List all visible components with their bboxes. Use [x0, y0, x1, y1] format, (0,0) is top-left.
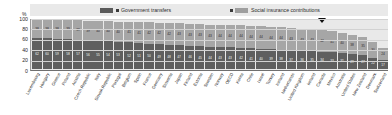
bar-value-label: 43 — [178, 32, 182, 36]
bar-segment-government-transfers: 60 — [43, 38, 52, 69]
bar-segment-social-insurance: 38 — [348, 35, 357, 54]
x-tick: Ireland — [306, 72, 316, 115]
bar-segment-social-insurance: 42 — [165, 23, 174, 44]
x-tick: Czech Republic — [82, 72, 92, 115]
bar-value-label: 60 — [45, 52, 49, 56]
bar-value-label: 49 — [157, 55, 161, 59]
x-tick: Norway — [215, 72, 225, 115]
bar-value-label: 41 — [127, 30, 131, 34]
x-tick-label: Slovenia — [161, 72, 173, 89]
x-tick: Portugal — [113, 72, 123, 115]
bar-value-label: 42 — [239, 56, 243, 60]
x-tick: Hungary — [41, 72, 51, 115]
x-tick: United Kingdom — [296, 72, 306, 115]
x-tick-label: Poland — [60, 72, 71, 86]
bar-value-label: 55 — [96, 53, 100, 57]
bar-value-label: 38 — [351, 43, 355, 47]
bar-value-label: 42 — [167, 32, 171, 36]
bar-segment-government-transfers: 38 — [277, 50, 286, 69]
x-tick: OECD — [225, 72, 235, 115]
bar-segment-government-transfers: 58 — [63, 39, 72, 69]
x-tick: Switzerland — [378, 72, 388, 115]
gridline — [31, 29, 388, 30]
x-tick: Germany — [153, 72, 163, 115]
x-tick: Turkey — [266, 72, 276, 115]
gridline — [31, 40, 388, 41]
bar-segment-government-transfers: 56 — [83, 40, 92, 69]
x-tick: Israel — [255, 72, 265, 115]
bar-segment-social-insurance: 42 — [155, 23, 164, 44]
bar-value-label: 45 — [198, 56, 202, 60]
y-tick-label: 80 — [2, 27, 28, 32]
bar-segment-government-transfers: 57 — [73, 40, 82, 69]
bar-value-label: 43 — [218, 56, 222, 60]
bar-value-label: 42 — [147, 31, 151, 35]
bar-segment-social-insurance: 44 — [216, 25, 225, 47]
bar-segment-government-transfers: 59 — [53, 39, 62, 69]
x-tick: New Zealand — [358, 72, 368, 115]
y-tick-label: 60 — [2, 37, 28, 42]
bar-segment-government-transfers: 41 — [246, 48, 255, 69]
x-tick-label: Korea — [235, 72, 245, 84]
x-tick-label: Greece — [50, 72, 61, 87]
legend-label-social-insurance: Social insurance contributions — [251, 7, 320, 13]
legend-swatch-light-icon — [235, 8, 248, 13]
x-tick: Finland — [184, 72, 194, 115]
bar-segment-government-transfers: 39 — [266, 49, 275, 69]
x-tick: Greece — [51, 72, 61, 115]
bar-value-label: 59 — [56, 52, 60, 56]
bar-value-label: 35 — [361, 44, 365, 48]
bar-segment-social-insurance: 43 — [205, 25, 214, 47]
bar-value-label: 58 — [66, 52, 70, 56]
bar-value-label: 52 — [127, 54, 131, 58]
bar-segment-social-insurance: 43 — [185, 24, 194, 46]
bar-value-label: 46 — [188, 55, 192, 59]
bar-segment-social-insurance: 39 — [83, 21, 92, 41]
bar-segment-government-transfers: 22 — [368, 58, 377, 69]
x-tick-label: OECD — [224, 72, 234, 85]
bar-segment-social-insurance: 43 — [195, 24, 204, 46]
gridline — [31, 50, 388, 51]
bar-value-label: 43 — [188, 33, 192, 37]
x-tick-label: Sweden — [202, 72, 214, 88]
y-tick-label: 100 — [2, 17, 28, 22]
x-tick: Belgium — [123, 72, 133, 115]
y-tick-label: 20 — [2, 58, 28, 63]
bar-value-label: 43 — [208, 34, 212, 38]
x-tick-label: Hungary — [39, 72, 51, 89]
bar-segment-social-insurance: 43 — [175, 23, 184, 45]
bar-value-label: 41 — [137, 31, 141, 35]
bar-segment-government-transfers: 54 — [104, 41, 113, 69]
x-tick-label: Chile — [246, 72, 255, 83]
bar-segment-government-transfers: 27 — [358, 55, 367, 69]
bar-value-label: 22 — [371, 62, 375, 66]
bar-value-label: 50 — [147, 54, 151, 58]
bar-segment-government-transfers: 29 — [348, 54, 357, 69]
bar-segment-government-transfers: 62 — [32, 38, 41, 69]
bar-value-label: 56 — [86, 53, 90, 57]
x-tick: Slovenia — [164, 72, 174, 115]
x-tick: Poland — [62, 72, 72, 115]
x-tick: Luxembourg — [31, 72, 41, 115]
x-tick-label: Belgium — [121, 72, 133, 88]
bar-segment-government-transfers: 55 — [93, 41, 102, 69]
bar-segment-government-transfers: 48 — [165, 45, 174, 69]
bar-segment-government-transfers: 17 — [378, 60, 387, 69]
chart-legend: Government transfers Social insurance co… — [30, 4, 388, 16]
bar-value-label: 44 — [208, 56, 212, 60]
bar-value-label: 44 — [239, 35, 243, 39]
gridline — [31, 61, 388, 62]
gridline — [31, 19, 388, 20]
bar-value-label: 53 — [117, 54, 121, 58]
legend-swatch-dark-icon — [100, 8, 113, 13]
bar-value-label: 40 — [340, 41, 344, 45]
bar-segment-social-insurance: 40 — [93, 21, 102, 41]
bar-value-label: 44 — [259, 36, 263, 40]
bar-value-label: 44 — [249, 35, 253, 39]
legend-label-government-transfers: Government transfers — [121, 7, 171, 13]
bar-segment-government-transfers: 51 — [134, 43, 143, 69]
y-tick-label: 40 — [2, 48, 28, 53]
bar-segment-government-transfers: 46 — [185, 46, 194, 69]
bar-segment-government-transfers: 40 — [256, 49, 265, 69]
bar-value-label: 54 — [106, 53, 110, 57]
